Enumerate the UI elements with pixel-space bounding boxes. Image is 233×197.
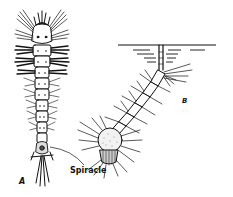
larva-b-thorax <box>98 128 122 152</box>
panel-label-b: B <box>182 97 187 105</box>
larva-a-tail <box>31 152 53 186</box>
larva-a-head-crown <box>34 11 50 25</box>
larva-b <box>78 45 192 178</box>
water-surface <box>118 45 216 62</box>
spiracle-label: Spiracle <box>70 166 106 175</box>
larva-b-abdomen <box>112 70 165 134</box>
panel-label-a: A <box>19 177 25 186</box>
larva-a-head <box>32 24 52 44</box>
larva-a-spiracle-plate <box>36 142 48 155</box>
spiracle-leader-line <box>50 147 84 165</box>
larva-b-siphon <box>159 45 163 70</box>
larva-b-tail-brush <box>163 64 192 86</box>
mosquito-larvae-illustration <box>0 0 233 197</box>
larva-a <box>15 10 69 186</box>
